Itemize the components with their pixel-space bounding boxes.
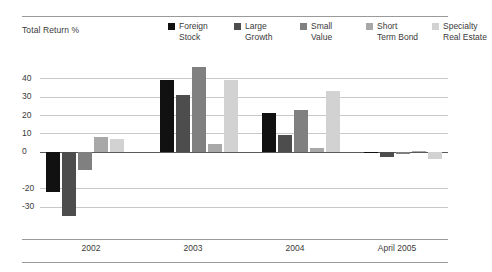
y-axis-tick-label: -20 [22, 184, 39, 193]
legend-swatch-icon [300, 23, 307, 30]
bar [94, 137, 108, 152]
y-axis-title: Total Return % [22, 25, 79, 35]
bar [396, 152, 410, 155]
bars-group [40, 60, 448, 225]
bar [428, 152, 442, 159]
bar [294, 110, 308, 152]
legend-item: Short Term Bond [366, 21, 432, 42]
y-axis-tick-label: 40 [22, 74, 39, 83]
legend-swatch-icon [366, 23, 373, 30]
x-axis-tick-label: 2002 [82, 243, 101, 253]
bar [176, 95, 190, 152]
legend-item: Specialty Real Estate [432, 21, 492, 42]
bar [160, 80, 174, 152]
x-axis-line [22, 239, 448, 240]
plot-area: 403020100-20-30 [22, 60, 448, 225]
legend-label: Specialty Real Estate [443, 21, 487, 42]
bar [380, 152, 394, 158]
legend-item: Foreign Stock [168, 21, 234, 42]
bar [224, 80, 238, 152]
bar [278, 135, 292, 152]
bar [310, 148, 324, 152]
legend-swatch-icon [234, 23, 241, 30]
bar [78, 152, 92, 170]
y-axis-tick-label: 10 [22, 129, 39, 138]
legend-label: Large Growth [245, 21, 272, 42]
chart-legend: Foreign StockLarge GrowthSmall ValueShor… [168, 21, 492, 42]
bar [262, 113, 276, 152]
bottom-divider [22, 262, 448, 263]
bar [62, 152, 76, 216]
x-axis-tick-label: 2004 [286, 243, 305, 253]
bar [326, 91, 340, 152]
legend-item: Large Growth [234, 21, 300, 42]
y-axis-tick-label: 0 [22, 147, 39, 156]
y-axis-tick-label: -30 [22, 202, 39, 211]
legend-swatch-icon [432, 23, 439, 30]
y-axis-tick-label: 30 [22, 92, 39, 101]
y-axis-tick-label: 20 [22, 111, 39, 120]
bar [208, 144, 222, 151]
top-divider [22, 16, 448, 17]
x-axis-tick-label: April 2005 [378, 243, 416, 253]
legend-swatch-icon [168, 23, 175, 30]
chart-header: Total Return % Foreign StockLarge Growth… [22, 21, 448, 55]
bar [412, 151, 426, 152]
bar [192, 67, 206, 151]
bar [364, 152, 378, 153]
legend-label: Small Value [311, 21, 332, 42]
x-axis-tick-label: 2003 [184, 243, 203, 253]
legend-label: Foreign Stock [179, 21, 208, 42]
bar [110, 139, 124, 152]
legend-item: Small Value [300, 21, 366, 42]
bar [46, 152, 60, 192]
legend-label: Short Term Bond [377, 21, 418, 42]
x-axis-labels: 200220032004April 2005 [40, 243, 448, 261]
